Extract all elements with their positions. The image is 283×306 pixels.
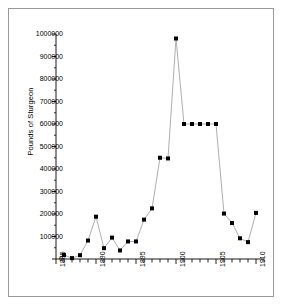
figure: Pounds of Sturgeon 010000020000030000040… bbox=[0, 0, 283, 306]
x-axis-tick-label: 1910 bbox=[259, 251, 266, 267]
x-axis-tick-labels: 188518901895190019051910 bbox=[9, 9, 273, 296]
chart-frame: Pounds of Sturgeon 010000020000030000040… bbox=[8, 8, 274, 297]
x-axis-tick-label: 1890 bbox=[99, 251, 106, 267]
x-axis-tick-label: 1895 bbox=[139, 251, 146, 267]
x-axis-tick-label: 1900 bbox=[179, 251, 186, 267]
plot-area: Pounds of Sturgeon 010000020000030000040… bbox=[9, 9, 273, 296]
x-axis-tick-label: 1905 bbox=[219, 251, 226, 267]
x-axis-tick-label: 1885 bbox=[59, 251, 66, 267]
